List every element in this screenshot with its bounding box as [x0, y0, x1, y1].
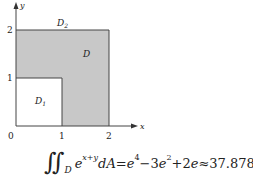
y-axis-arrow-icon: [14, 2, 19, 9]
term2-exponent: 2: [166, 153, 171, 162]
term2-coef: 3: [150, 156, 158, 171]
region-d1-label: D1: [34, 96, 46, 107]
term3-base: e: [191, 156, 199, 171]
integrand-base: e: [75, 156, 83, 171]
result-value: 37.878: [209, 156, 253, 171]
integrand-exponent: x+y: [82, 153, 98, 162]
region-diagram: y x 0 1 2 1 2 D2 D D1: [0, 0, 253, 145]
equals-sign: =: [116, 156, 127, 171]
term3-coef: 2: [182, 156, 190, 171]
region-d2-label: D2: [56, 18, 68, 29]
approx-sign: ≈: [198, 156, 209, 171]
x-axis-arrow-icon: [131, 124, 138, 129]
plus-sign: +: [172, 156, 183, 171]
term2-base: e: [159, 156, 167, 171]
term1-exponent: 4: [134, 153, 139, 162]
origin-label: 0: [8, 131, 14, 141]
double-integral-symbol: ∬: [44, 148, 56, 176]
x-tick-1: 1: [59, 131, 65, 141]
differential: dA: [98, 156, 116, 171]
integral-domain: D: [64, 165, 71, 175]
x-axis-label: x: [140, 122, 145, 131]
integral-formula: ∬ D ex+y dA = e4 − 3e2 + 2e ≈ 37.878: [44, 145, 253, 181]
region-d-label: D: [82, 49, 90, 59]
y-axis-label: y: [19, 1, 25, 10]
y-tick-2: 2: [7, 25, 13, 35]
term1-base: e: [127, 156, 135, 171]
x-tick-2: 2: [106, 131, 112, 141]
minus-sign: −: [140, 156, 151, 171]
y-tick-1: 1: [7, 73, 13, 83]
